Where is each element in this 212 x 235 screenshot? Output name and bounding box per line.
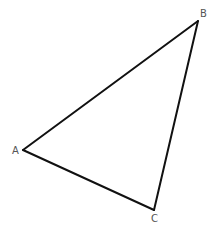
edge-ca — [23, 150, 154, 210]
triangle-diagram: A B C — [0, 0, 212, 235]
vertex-label-c: C — [151, 213, 158, 224]
vertex-label-a: A — [12, 145, 19, 156]
vertex-label-b: B — [200, 8, 207, 19]
